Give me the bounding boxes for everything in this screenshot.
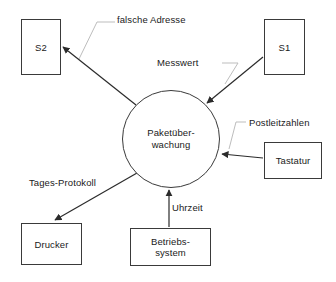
entity-node-drucker-label: Drucker [35,239,69,250]
entity-node-drucker[interactable]: Drucker [21,223,82,265]
process-label-line-1: Paketüber- [147,127,194,138]
entity-node-s1[interactable]: S1 [264,19,305,75]
flow-label-uhrzeit: Uhrzeit [172,202,203,213]
entity-node-tastatur[interactable]: Tastatur [264,142,322,179]
entity-node-betriebssystem[interactable]: Betriebs- system [130,228,211,266]
leader-postleitzahlen [229,122,246,149]
flow-arrow-falsche-adresse [63,47,136,105]
flow-label-postleitzahlen: Postleitzahlen [249,117,310,128]
process-node-paketueberwachung[interactable]: Paketüber- wachung [122,90,220,188]
entity-node-s2[interactable]: S2 [21,19,61,75]
entity-node-betriebssystem-label: Betriebs- system [151,236,190,258]
process-label-line-2: wachung [152,139,191,150]
entity-node-tastatur-label: Tastatur [276,155,311,166]
leader-falsche-adresse [79,22,115,59]
flow-label-tages-protokoll: Tages-Protokoll [29,177,96,188]
process-node-label: Paketüber- wachung [147,127,194,151]
data-flow-diagram: Paketüber- wachung S2 S1 Tastatur Drucke… [0,0,336,282]
entity-node-s2-label: S2 [35,42,47,53]
flow-label-falsche-adresse: falsche Adresse [117,14,186,25]
flow-arrow-messwert [207,57,263,103]
leader-messwert [222,63,238,84]
flow-label-messwert: Messwert [157,57,198,68]
betriebssystem-label-line-1: Betriebs- [151,236,190,247]
entity-node-s1-label: S1 [279,42,291,53]
flow-arrow-postleitzahlen [222,154,263,158]
betriebssystem-label-line-2: system [155,247,186,258]
